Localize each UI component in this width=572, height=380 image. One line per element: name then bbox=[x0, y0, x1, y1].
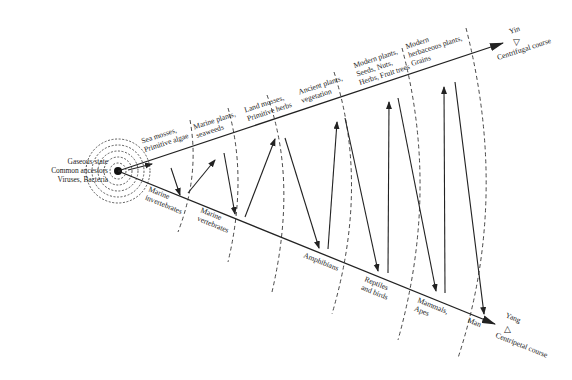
centripetal-axis bbox=[118, 171, 495, 324]
stage-marine-vertebrates: Marine vertebrates bbox=[196, 206, 234, 235]
yang-label: Yang bbox=[504, 311, 522, 325]
yin-label: Yin bbox=[508, 24, 521, 36]
stage-marine-invertebrates: Marine invertebrates bbox=[144, 185, 187, 216]
lower-stage-labels: Marine invertebrates Marine vertebrates … bbox=[144, 185, 483, 330]
upper-stage-labels: Sea mosses, Primitive algae Marine plant… bbox=[140, 25, 466, 154]
yang-pole: Yang △ Centripetal course bbox=[494, 311, 549, 360]
centripetal-course-label: Centripetal course bbox=[494, 331, 549, 360]
evolution-spiral-diagram: Gaseous state Common ancestors Viruses, … bbox=[0, 0, 572, 380]
evolution-arrows bbox=[128, 82, 484, 314]
stage-reptiles-birds: Reptiles and birds bbox=[360, 275, 393, 302]
origin-line-1: Gaseous state bbox=[68, 157, 109, 166]
origin-label: Gaseous state Common ancestors Viruses, … bbox=[51, 157, 109, 184]
stage-mammals-apes: Mammals, Apes bbox=[413, 296, 450, 325]
stage-herbaceous-plants: Modern herbaceous plants, Grains bbox=[404, 25, 466, 68]
yin-pole: Yin ▽ Centrifugal course bbox=[496, 24, 553, 62]
origin-line-2: Common ancestors bbox=[51, 166, 108, 175]
stage-modern-plants: Modern plants, Seeds, Nuts, Herbs, Fruit… bbox=[352, 45, 411, 87]
origin-line-3: Viruses, Bacteria bbox=[58, 175, 109, 184]
stage-land-mosses: Land mosses, Primitive herbs bbox=[243, 91, 293, 123]
centrifugal-course-label: Centrifugal course bbox=[496, 36, 553, 62]
centrifugal-axis bbox=[118, 43, 503, 171]
